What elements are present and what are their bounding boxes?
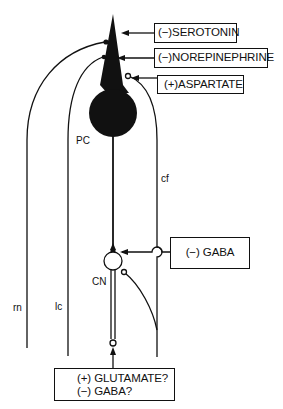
glutamate-label: (+) GLUTAMATE? — [77, 372, 168, 385]
serotonin-box: (−)SEROTONIN — [154, 23, 237, 43]
serotonin-label: (−)SEROTONIN — [158, 27, 239, 39]
aspartate-terminal — [126, 74, 131, 79]
gaba-box: (−) GABA — [170, 237, 250, 269]
cn-label: CN — [92, 276, 106, 287]
pc-label: PC — [76, 135, 90, 146]
purkinje-dendrite — [100, 14, 129, 93]
cn-soma — [104, 252, 122, 270]
rn-fiber — [27, 42, 105, 348]
aspartate-label: (+)ASPARTATE — [164, 79, 243, 91]
purkinje-soma — [89, 89, 137, 137]
norepinephrine-label: (−)NOREPINEPHRINE — [158, 52, 274, 64]
gaba-question-label: (−) GABA? — [77, 385, 132, 398]
rn-label: rn — [13, 302, 22, 313]
gaba-label: (−) GABA — [186, 247, 235, 259]
norepinephrine-box: (−)NOREPINEPHRINE — [154, 48, 268, 68]
cf-collateral-terminal — [122, 270, 127, 275]
cf-collateral — [125, 273, 157, 330]
aspartate-box: (+)ASPARTATE — [157, 75, 244, 94]
output-box: (+) GLUTAMATE? (−) GABA? — [54, 368, 175, 401]
cn-input-terminal — [110, 340, 116, 346]
cf-label: cf — [161, 173, 169, 184]
lc-label: lc — [55, 301, 62, 312]
